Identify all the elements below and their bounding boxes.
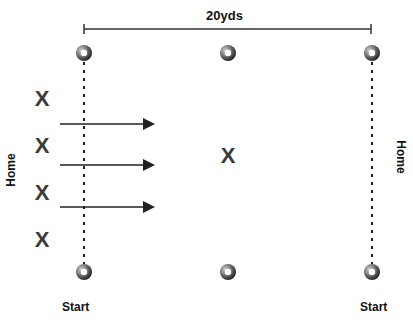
cone-icon (364, 45, 380, 61)
player-mark-3: X (35, 182, 50, 204)
cone-icon (76, 45, 92, 61)
drill-diagram-canvas (0, 0, 413, 327)
player-mark-1: X (35, 88, 50, 110)
cone-icon (220, 45, 236, 61)
player-mark-4: X (35, 229, 50, 251)
home-label-left: Home (4, 153, 18, 186)
run-arrows (60, 124, 152, 207)
start-label-right: Start (360, 300, 387, 314)
start-label-left: Start (62, 300, 89, 314)
cone-icon (76, 264, 92, 280)
distance-label: 20yds (206, 8, 243, 23)
distance-measure-line (84, 24, 371, 34)
center-player-mark: X (221, 145, 236, 167)
cone-icon (364, 264, 380, 280)
player-mark-2: X (35, 135, 50, 157)
cone-icon (220, 264, 236, 280)
home-label-right: Home (394, 140, 408, 173)
